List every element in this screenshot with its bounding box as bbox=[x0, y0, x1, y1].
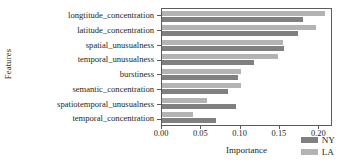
bar-la bbox=[162, 98, 207, 103]
y-tick-label: latitude_concentration bbox=[14, 23, 158, 38]
bar-la bbox=[162, 112, 193, 117]
bar-ny bbox=[162, 31, 298, 36]
y-tick-label: burstiness bbox=[14, 67, 158, 82]
bar-ny bbox=[162, 46, 284, 51]
bar-ny bbox=[162, 75, 238, 80]
plot-area bbox=[161, 8, 332, 126]
bar-group bbox=[162, 24, 331, 39]
bar-ny bbox=[162, 60, 254, 65]
x-tick-label: 0.05 bbox=[193, 129, 208, 138]
bar-la bbox=[162, 25, 316, 30]
bar-group bbox=[162, 38, 331, 53]
bar-la bbox=[162, 69, 241, 74]
legend-label-la: LA bbox=[322, 148, 334, 157]
y-tick-label: semantic_concentration bbox=[14, 82, 158, 97]
x-tick-label: 0.15 bbox=[272, 129, 287, 138]
y-axis-title-text: Features bbox=[3, 49, 13, 79]
bars-container bbox=[162, 9, 331, 125]
x-tick-label: 0.00 bbox=[154, 129, 169, 138]
bar-group bbox=[162, 53, 331, 68]
bar-la bbox=[162, 83, 241, 88]
y-tick-label: spatial_unusualness bbox=[14, 38, 158, 53]
y-tick-label: temporal_unusualness bbox=[14, 52, 158, 67]
bar-chart-figure: Features longtitude_concentration latitu… bbox=[0, 0, 342, 163]
bar-ny bbox=[162, 118, 216, 123]
bar-la bbox=[162, 11, 325, 16]
legend-item-ny: NY bbox=[301, 136, 335, 145]
bar-group bbox=[162, 82, 331, 97]
bar-group bbox=[162, 67, 331, 82]
legend-item-la: LA bbox=[301, 148, 335, 157]
y-axis-tick-labels: longtitude_concentration latitude_concen… bbox=[14, 8, 158, 126]
legend-swatch-ny bbox=[301, 137, 318, 143]
y-tick-label: temporal_concentration bbox=[14, 111, 158, 126]
bar-ny bbox=[162, 89, 228, 94]
y-tick-label: longtitude_concentration bbox=[14, 8, 158, 23]
bar-ny bbox=[162, 17, 303, 22]
y-tick-label: spatiotemporal_unusualness bbox=[14, 97, 158, 112]
bar-la bbox=[162, 40, 283, 45]
legend-swatch-la bbox=[301, 149, 318, 155]
bar-ny bbox=[162, 104, 236, 109]
legend-label-ny: NY bbox=[322, 136, 335, 145]
bar-group bbox=[162, 96, 331, 111]
bar-group bbox=[162, 111, 331, 126]
bar-la bbox=[162, 54, 278, 59]
chart-legend: NY LA bbox=[298, 134, 338, 159]
bar-group bbox=[162, 9, 331, 24]
x-tick-label: 0.10 bbox=[232, 129, 247, 138]
